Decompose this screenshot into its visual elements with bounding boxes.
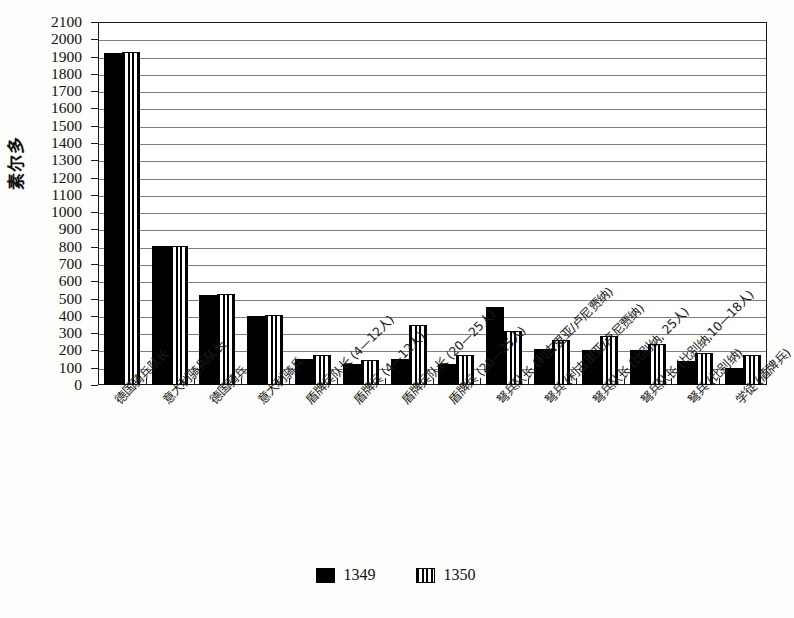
y-axis-ticks: 0100200300400500600700800900100011001200… <box>0 22 92 385</box>
y-axis-tick-mark <box>91 74 98 75</box>
bar-1349[interactable] <box>677 361 695 385</box>
bar-1350[interactable] <box>695 353 713 385</box>
y-axis-tick-mark <box>91 212 98 213</box>
y-axis-tick-label: 0 <box>74 377 82 393</box>
y-axis-tick-mark <box>91 57 98 58</box>
x-axis-tick-mark <box>624 378 625 385</box>
y-axis-tick-label: 800 <box>59 239 82 255</box>
x-axis-tick-mark <box>385 378 386 385</box>
bar-1350[interactable] <box>170 246 188 385</box>
bar-1350[interactable] <box>217 294 235 385</box>
y-axis-tick-label: 400 <box>59 308 82 324</box>
y-axis-tick-mark <box>91 143 98 144</box>
bar-group[interactable] <box>385 22 433 385</box>
bar-1349[interactable] <box>104 53 122 385</box>
bar-group[interactable] <box>98 22 146 385</box>
bar-1350[interactable] <box>122 52 140 385</box>
y-axis-tick-label: 2000 <box>51 32 82 48</box>
bar-group[interactable] <box>719 22 767 385</box>
x-axis-tick-mark <box>576 378 577 385</box>
y-axis-tick-mark <box>91 333 98 334</box>
y-axis-tick-mark <box>91 229 98 230</box>
y-axis-tick-label: 200 <box>59 343 82 359</box>
y-axis-tick-label: 1000 <box>51 204 82 220</box>
bar-1349[interactable] <box>582 350 600 385</box>
y-axis-tick-mark <box>91 281 98 282</box>
y-axis-tick-label: 1900 <box>51 49 82 65</box>
y-axis-tick-label: 700 <box>59 256 82 272</box>
y-axis-tick-mark <box>91 368 98 369</box>
y-axis-tick-label: 500 <box>59 291 82 307</box>
y-axis-tick-mark <box>91 264 98 265</box>
bar-1349[interactable] <box>486 307 504 385</box>
bar-1349[interactable] <box>438 364 456 385</box>
legend-label: 1349 <box>344 566 376 584</box>
bar-1349[interactable] <box>199 295 217 385</box>
bar-group[interactable] <box>289 22 337 385</box>
bar-group[interactable] <box>146 22 194 385</box>
y-axis-tick-mark <box>91 385 98 386</box>
y-axis-tick-mark <box>91 22 98 23</box>
x-axis-tick-mark <box>528 378 529 385</box>
bar-group[interactable] <box>671 22 719 385</box>
x-axis-tick-mark <box>671 378 672 385</box>
bar-group[interactable] <box>433 22 481 385</box>
legend-swatch-solid-icon <box>316 568 335 583</box>
y-axis-tick-mark <box>91 350 98 351</box>
x-axis-tick-mark <box>480 378 481 385</box>
x-axis-tick-mark <box>289 378 290 385</box>
bar-group[interactable] <box>576 22 624 385</box>
y-axis-tick-label: 1600 <box>51 101 82 117</box>
bar-1349[interactable] <box>152 246 170 385</box>
bar-1350[interactable] <box>409 325 427 385</box>
bars-layer <box>98 22 767 385</box>
bar-group[interactable] <box>194 22 242 385</box>
x-axis-tick-mark <box>241 378 242 385</box>
y-axis-tick-label: 300 <box>59 325 82 341</box>
x-axis-tick-mark <box>433 378 434 385</box>
y-axis-tick-mark <box>91 299 98 300</box>
legend-item-1349[interactable]: 1349 <box>316 566 376 584</box>
bar-group[interactable] <box>624 22 672 385</box>
bar-1350[interactable] <box>648 344 666 385</box>
bar-1349[interactable] <box>391 359 409 385</box>
bar-1350[interactable] <box>265 315 283 385</box>
bar-group[interactable] <box>241 22 289 385</box>
bar-1350[interactable] <box>504 331 522 385</box>
legend-swatch-striped-icon <box>416 568 435 583</box>
bar-group[interactable] <box>337 22 385 385</box>
bar-1349[interactable] <box>343 364 361 385</box>
bar-1350[interactable] <box>743 355 761 385</box>
y-axis-tick-mark <box>91 39 98 40</box>
bar-1349[interactable] <box>247 316 265 385</box>
bar-1350[interactable] <box>313 355 331 385</box>
y-axis-tick-mark <box>91 316 98 317</box>
y-axis-tick-label: 1800 <box>51 66 82 82</box>
bar-1349[interactable] <box>630 350 648 385</box>
y-axis-tick-mark <box>91 195 98 196</box>
bar-1350[interactable] <box>361 360 379 385</box>
bar-1350[interactable] <box>552 340 570 385</box>
bar-1349[interactable] <box>725 368 743 385</box>
legend-label: 1350 <box>444 566 476 584</box>
bar-1349[interactable] <box>295 359 313 385</box>
y-axis-tick-mark <box>91 108 98 109</box>
y-axis-tick-mark <box>91 247 98 248</box>
y-axis-tick-label: 900 <box>59 222 82 238</box>
bar-1350[interactable] <box>600 336 618 385</box>
y-axis-tick-mark <box>91 178 98 179</box>
bar-group[interactable] <box>480 22 528 385</box>
y-axis-tick-label: 1500 <box>51 118 82 134</box>
y-axis-tick-label: 1100 <box>52 187 82 203</box>
bar-group[interactable] <box>528 22 576 385</box>
y-axis-tick-label: 600 <box>59 274 82 290</box>
x-axis-tick-mark <box>194 378 195 385</box>
bar-1349[interactable] <box>534 349 552 385</box>
legend-item-1350[interactable]: 1350 <box>416 566 476 584</box>
x-axis-tick-mark <box>337 378 338 385</box>
y-axis-tick-mark <box>91 126 98 127</box>
bar-1350[interactable] <box>456 355 474 385</box>
y-axis-tick-label: 1400 <box>51 135 82 151</box>
y-axis-tick-label: 2100 <box>51 14 82 30</box>
